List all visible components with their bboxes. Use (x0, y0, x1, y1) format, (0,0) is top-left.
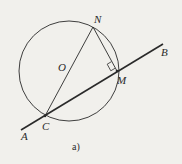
label-n: N (93, 13, 102, 25)
label-b: B (161, 46, 168, 58)
label-m: M (116, 74, 127, 86)
geometry-diagram: N O M B C A a) (0, 0, 182, 164)
figure-caption: a) (72, 141, 80, 153)
line-ab (21, 44, 163, 130)
point-c-dot (44, 115, 47, 118)
label-c: C (42, 120, 50, 132)
label-o: O (58, 61, 66, 73)
right-angle-mark (107, 62, 115, 71)
diameter-nc (45, 27, 93, 116)
point-m-dot (116, 70, 119, 73)
label-a: A (20, 130, 28, 142)
